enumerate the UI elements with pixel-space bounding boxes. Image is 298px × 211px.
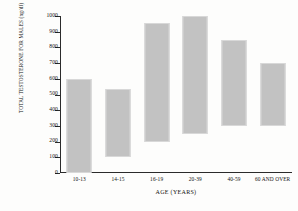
bar: [105, 89, 130, 157]
bar: [183, 16, 208, 134]
y-axis-tick-label: 0: [55, 169, 58, 175]
x-axis-tick-label: 60 AND OVER: [255, 176, 290, 182]
bar: [67, 79, 92, 173]
x-axis-tick-label: 16-19: [150, 176, 163, 182]
y-axis-tick-label: 400: [49, 106, 58, 112]
bar-slot: 16-19: [137, 16, 176, 173]
y-axis-tick-label: 100: [49, 153, 58, 159]
bar-slot: 20-39: [176, 16, 215, 173]
y-axis-tick-label: 200: [49, 137, 58, 143]
plot-area: 01002003004005006007008009001000 10-1314…: [60, 16, 292, 173]
y-axis-tick-label: 900: [49, 28, 58, 34]
bar-slot: 10-13: [60, 16, 99, 173]
y-axis-tick-label: 800: [49, 43, 58, 49]
y-axis-tick-label: 500: [49, 90, 58, 96]
y-axis-tick-label: 600: [49, 75, 58, 81]
bar-slot: 40-59: [215, 16, 254, 173]
bar-slot: 14-15: [99, 16, 138, 173]
x-axis-tick-label: 20-39: [189, 176, 202, 182]
x-axis-tick-label: 40-59: [227, 176, 240, 182]
y-axis-tick-label: 1000: [46, 12, 58, 18]
bar: [260, 63, 285, 126]
chart-figure: TOTAL TESTOSTERONE FOR MALES (ng/dl) 010…: [0, 0, 298, 211]
bar: [221, 40, 246, 126]
y-axis-tick-label: 300: [49, 122, 58, 128]
x-axis-tick-label: 10-13: [73, 176, 86, 182]
y-axis-title: TOTAL TESTOSTERONE FOR MALES (ng/dl): [18, 0, 24, 133]
x-axis-title: AGE (YEARS): [60, 189, 292, 195]
y-axis-tick-label: 700: [49, 59, 58, 65]
bar-slot: 60 AND OVER: [253, 16, 292, 173]
x-axis-tick-label: 14-15: [111, 176, 124, 182]
bar: [144, 23, 169, 142]
